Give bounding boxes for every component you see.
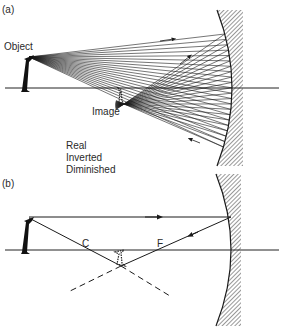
panel-a xyxy=(5,10,279,166)
focus-label: F xyxy=(157,238,163,249)
panel-b-tag: (b) xyxy=(2,178,14,189)
dashed-extension-2 xyxy=(121,266,170,296)
ray-through-focus xyxy=(121,217,231,266)
panel-b xyxy=(5,174,279,326)
concave-mirror-diagram: (a) Object Image Real Inverted Diminishe… xyxy=(0,0,281,331)
diagram-graphics xyxy=(0,0,281,331)
object-arrow-a xyxy=(21,55,34,92)
property-real: Real xyxy=(66,140,87,151)
dashed-extension-1 xyxy=(68,266,121,292)
image-label: Image xyxy=(92,106,120,117)
property-inverted: Inverted xyxy=(66,152,102,163)
ray-through-center xyxy=(29,218,121,266)
object-label: Object xyxy=(4,41,33,52)
object-arrow-b xyxy=(21,217,34,254)
property-diminished: Diminished xyxy=(66,164,115,175)
ray-fan-a xyxy=(29,34,232,147)
center-of-curvature-label: C xyxy=(82,238,89,249)
panel-a-tag: (a) xyxy=(2,4,14,15)
image-arrow-b xyxy=(115,250,125,266)
